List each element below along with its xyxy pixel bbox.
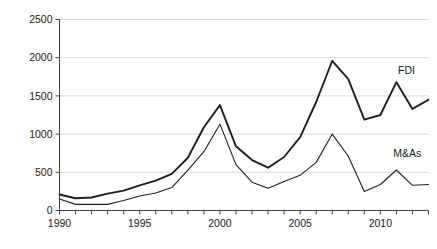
x-tick-label-2005: 2005 (288, 217, 312, 229)
y-tick-label-1000: 1000 (29, 128, 53, 140)
y-tick-label-500: 500 (35, 166, 53, 178)
y-tick-label-2000: 2000 (29, 51, 53, 63)
y-tick-label-0: 0 (47, 204, 53, 216)
y-tick-label-2500: 2500 (29, 13, 53, 25)
x-tick-label-2010: 2010 (369, 217, 393, 229)
chart-canvas: 05001000150020002500 1990199520002005201… (0, 0, 437, 249)
series-label-m-as: M&As (393, 147, 421, 159)
x-tick-label-1995: 1995 (128, 217, 152, 229)
series-label-fdi: FDI (398, 64, 415, 76)
y-tick-label-1500: 1500 (29, 90, 53, 102)
x-tick-label-1990: 1990 (48, 217, 72, 229)
chart-background (0, 0, 437, 249)
line-chart: 05001000150020002500 1990199520002005201… (0, 0, 437, 249)
x-tick-label-2000: 2000 (208, 217, 232, 229)
